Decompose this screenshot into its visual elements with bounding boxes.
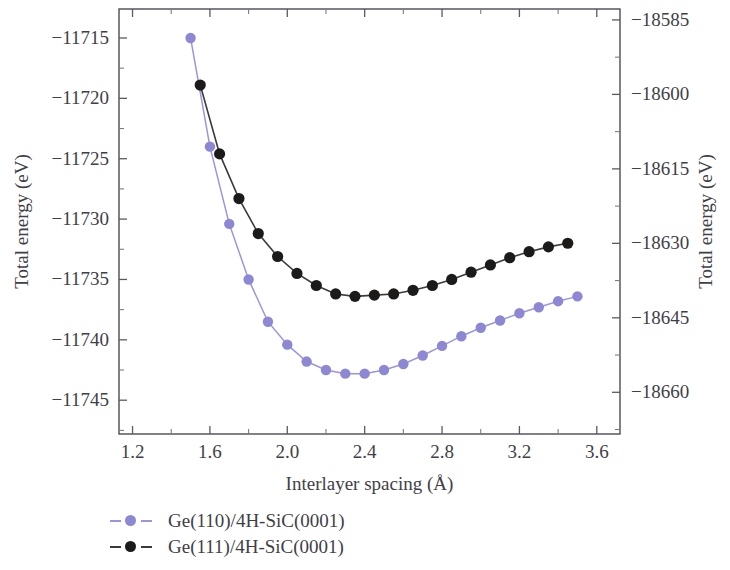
data-point-series-2 <box>369 290 380 301</box>
y-tick-label-left: −11735 <box>51 268 109 289</box>
data-point-series-2 <box>446 274 457 285</box>
legend-item: Ge(111)/4H-SiC(0001) <box>108 534 528 560</box>
plot-frame <box>119 9 620 434</box>
legend-marker-icon <box>108 511 154 531</box>
y-tick-label-right: −18645 <box>631 307 689 328</box>
data-point-series-1 <box>340 368 350 378</box>
x-tick-label: 2.8 <box>430 441 454 462</box>
legend-item: Ge(110)/4H-SiC(0001) <box>108 508 528 534</box>
data-point-series-1 <box>553 296 563 306</box>
data-point-series-2 <box>214 148 225 159</box>
data-point-series-2 <box>195 79 206 90</box>
legend-dash-right <box>141 546 152 548</box>
y-tick-label-right: −18660 <box>631 381 689 402</box>
data-point-series-2 <box>427 280 438 291</box>
data-point-series-2 <box>465 267 476 278</box>
series-line-2 <box>200 85 568 296</box>
y-axis-title-right: Total energy (eV) <box>695 154 717 288</box>
data-point-series-1 <box>398 359 408 369</box>
data-point-series-1 <box>282 339 292 349</box>
x-tick-label: 2.4 <box>353 441 377 462</box>
x-tick-label: 1.2 <box>121 441 145 462</box>
legend-dot <box>125 541 136 552</box>
y-tick-label-left: −11715 <box>51 27 109 48</box>
y-tick-label-right: −18615 <box>631 158 689 179</box>
data-point-series-1 <box>359 368 369 378</box>
legend-dash-right <box>141 520 152 522</box>
y-tick-label-right: −18585 <box>631 9 689 30</box>
legend-dash-left <box>110 546 121 548</box>
y-tick-label-left: −11745 <box>51 389 109 410</box>
data-point-series-2 <box>543 241 554 252</box>
energy-vs-interlayer-spacing-figure: 1.21.62.02.42.83.23.6−11715−11720−11725−… <box>0 0 730 570</box>
data-point-series-1 <box>437 341 447 351</box>
x-axis-title: Interlayer spacing (Å) <box>286 473 454 495</box>
data-point-series-1 <box>417 350 427 360</box>
x-tick-label: 3.6 <box>585 441 609 462</box>
data-point-series-1 <box>534 302 544 312</box>
data-point-series-2 <box>485 259 496 270</box>
data-point-series-1 <box>456 331 466 341</box>
data-point-series-1 <box>514 308 524 318</box>
x-tick-label: 1.6 <box>198 441 222 462</box>
data-point-series-2 <box>330 288 341 299</box>
data-point-series-2 <box>562 238 573 249</box>
y-tick-label-left: −11720 <box>51 87 109 108</box>
y-axis-title-left: Total energy (eV) <box>11 154 33 288</box>
data-point-series-1 <box>301 356 311 366</box>
data-point-series-1 <box>379 365 389 375</box>
data-point-series-1 <box>205 141 215 151</box>
data-point-series-2 <box>349 291 360 302</box>
data-point-series-2 <box>523 246 534 257</box>
x-tick-label: 3.2 <box>508 441 532 462</box>
data-point-series-1 <box>495 315 505 325</box>
y-tick-label-left: −11725 <box>51 148 109 169</box>
data-point-series-1 <box>185 33 195 43</box>
x-tick-label: 2.0 <box>275 441 299 462</box>
data-point-series-1 <box>321 365 331 375</box>
data-point-series-2 <box>272 251 283 262</box>
data-point-series-2 <box>407 285 418 296</box>
y-tick-label-right: −18600 <box>631 83 689 104</box>
data-point-series-1 <box>224 219 234 229</box>
data-point-series-2 <box>233 193 244 204</box>
chart-canvas: 1.21.62.02.42.83.23.6−11715−11720−11725−… <box>0 0 730 570</box>
y-tick-label-left: −11740 <box>51 329 109 350</box>
data-point-series-1 <box>263 317 273 327</box>
legend-dot <box>125 515 136 526</box>
data-point-series-2 <box>311 280 322 291</box>
legend-marker-icon <box>108 537 154 557</box>
data-point-series-1 <box>476 323 486 333</box>
data-point-series-1 <box>243 274 253 284</box>
legend-label: Ge(110)/4H-SiC(0001) <box>154 510 345 532</box>
data-point-series-2 <box>253 228 264 239</box>
legend-label: Ge(111)/4H-SiC(0001) <box>154 536 344 558</box>
data-point-series-2 <box>291 268 302 279</box>
y-tick-label-right: −18630 <box>631 232 689 253</box>
y-tick-label-left: −11730 <box>51 208 109 229</box>
legend-dash-left <box>110 520 121 522</box>
series-line-1 <box>191 38 578 374</box>
data-point-series-1 <box>572 291 582 301</box>
chart-legend: Ge(110)/4H-SiC(0001)Ge(111)/4H-SiC(0001) <box>108 508 528 560</box>
data-point-series-2 <box>388 288 399 299</box>
data-point-series-2 <box>504 252 515 263</box>
